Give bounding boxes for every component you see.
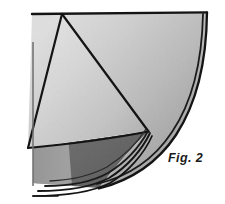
figure-container: Fig. 2 — [0, 0, 225, 204]
top-edge-line — [32, 12, 207, 14]
figure-illustration — [0, 0, 225, 204]
figure-caption: Fig. 2 — [168, 152, 203, 165]
